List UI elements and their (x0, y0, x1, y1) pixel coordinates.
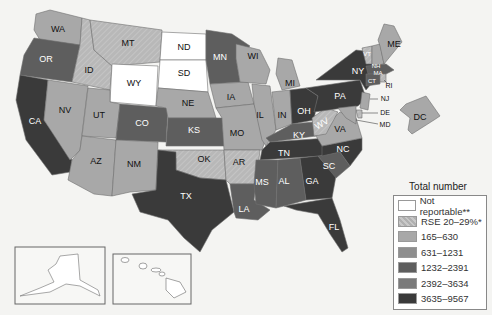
label-id: ID (85, 65, 95, 75)
legend-label: RSE 20–29%* (421, 216, 482, 227)
legend-item: Not reportable** (398, 198, 482, 214)
label-mt: MT (122, 38, 135, 48)
label-ia: IA (227, 92, 236, 102)
label-in: IN (278, 110, 287, 120)
label-nv: NV (59, 105, 72, 115)
label-ms: MS (255, 177, 269, 187)
label-sc: SC (323, 161, 336, 171)
label-tn: TN (278, 148, 290, 158)
label-ar: AR (233, 157, 246, 167)
label-fl: FL (329, 222, 340, 232)
legend-item: 2392–3634 (398, 276, 482, 292)
label-mn: MN (213, 52, 227, 62)
label-va: VA (334, 124, 345, 134)
label-nc: NC (337, 144, 350, 154)
label-sd: SD (178, 68, 191, 78)
label-wa: WA (51, 24, 65, 34)
legend-title: Total number (389, 181, 487, 192)
label-de: DE (380, 109, 390, 116)
legend: Total number Not reportable** RSE 20–29%… (393, 181, 487, 310)
legend-label: 1232–2391 (421, 262, 469, 273)
label-mo: MO (230, 128, 245, 138)
legend-item: 631–1231 (398, 245, 482, 261)
label-mi: MI (285, 78, 295, 88)
label-ky: KY (293, 130, 305, 140)
label-ct: CT (368, 78, 376, 84)
label-nd: ND (178, 42, 191, 52)
label-ca: CA (29, 116, 42, 126)
label-wi: WI (248, 51, 259, 61)
label-wy: WY (127, 78, 142, 88)
legend-label: 165–630 (421, 231, 458, 242)
label-pa: PA (334, 91, 345, 101)
label-az: AZ (90, 156, 102, 166)
legend-item: 3635–9567 (398, 291, 482, 307)
legend-label: Not reportable** (420, 195, 482, 217)
label-ok: OK (197, 154, 210, 164)
legend-label: 631–1231 (421, 247, 463, 258)
label-tx: TX (180, 191, 192, 201)
swatch-165-630 (398, 231, 417, 242)
legend-item: 165–630 (398, 229, 482, 245)
label-ks: KS (188, 125, 200, 135)
state-wi (236, 44, 270, 84)
legend-item: RSE 20–29%* (398, 214, 482, 230)
legend-item: 1232–2391 (398, 260, 482, 276)
label-ga: GA (305, 176, 318, 186)
label-ma: MA (374, 70, 383, 76)
swatch-1232-2391 (398, 262, 417, 273)
swatch-2392-3634 (398, 278, 417, 289)
label-me: ME (387, 39, 401, 49)
label-ne: NE (182, 98, 195, 108)
label-il: IL (256, 110, 264, 120)
state-de (356, 110, 362, 118)
label-nm: NM (127, 159, 141, 169)
label-ny: NY (352, 66, 365, 76)
state-nj (360, 92, 370, 110)
label-la: LA (238, 204, 249, 214)
legend-label: 3635–9567 (421, 293, 469, 304)
label-oh: OH (297, 106, 311, 116)
swatch-3635-9567 (398, 293, 417, 304)
legend-label: 2392–3634 (421, 278, 469, 289)
label-co: CO (135, 118, 149, 128)
swatch-not-reportable (398, 200, 416, 211)
swatch-631-1231 (398, 247, 417, 258)
label-md: MD (380, 121, 391, 128)
label-ut: UT (93, 110, 105, 120)
label-or: OR (39, 54, 53, 64)
label-vt: VT (363, 51, 371, 57)
label-nh: NH (372, 63, 381, 69)
swatch-rse (398, 216, 417, 227)
label-dc: DC (414, 112, 427, 122)
label-nj: NJ (381, 95, 390, 102)
label-al: AL (278, 176, 289, 186)
